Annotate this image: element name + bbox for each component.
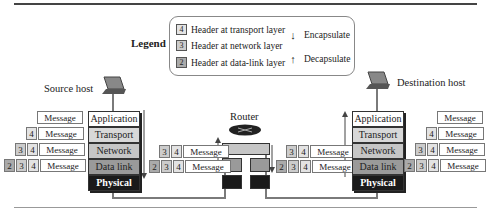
router-icon [228, 124, 262, 136]
router-label: Router [230, 111, 259, 122]
router-physical-in [222, 175, 242, 189]
source-packet-transport: 4 Message [25, 127, 84, 140]
source-layer-data-link: Data link [88, 159, 140, 175]
destination-packet-data-link: 2 3 4 Message [403, 159, 486, 172]
destination-packet-transport: 4 Message [425, 127, 484, 140]
source-packet-application: Message [36, 111, 83, 124]
destination-host-label: Destination host [397, 77, 466, 88]
destination-layer-data-link: Data link [352, 159, 404, 175]
source-layer-physical: Physical [88, 175, 140, 191]
source-packet-network: 3 4 Message [14, 143, 85, 156]
router-physical-out [250, 175, 270, 189]
source-packet-data-link: 2 3 4 Message [3, 159, 86, 172]
destination-layer-network: Network [352, 143, 404, 159]
destination-packet-application: Message [436, 111, 483, 124]
data-path [0, 0, 489, 213]
router-in-packet-data-link: 2 3 4 Message [148, 160, 231, 173]
destination-packet-network: 3 4 Message [414, 143, 485, 156]
laptop-icon [98, 75, 128, 97]
router-out-packet-data-link: 2 3 4 Message [275, 160, 358, 173]
source-layer-transport: Transport [88, 127, 140, 143]
router-data-link-out [250, 158, 270, 172]
source-host-label: Source host [44, 83, 93, 94]
router-out-packet-network: 3 4 Message [285, 145, 356, 158]
router-network-layer [222, 143, 270, 155]
source-layer-network: Network [88, 143, 140, 159]
source-layer-application: Application [88, 111, 140, 127]
destination-layer-transport: Transport [352, 127, 404, 143]
destination-layer-application: Application [352, 111, 404, 127]
destination-layer-physical: Physical [352, 175, 404, 191]
laptop-icon [362, 70, 392, 92]
router-in-packet-network: 3 4 Message [158, 145, 229, 158]
